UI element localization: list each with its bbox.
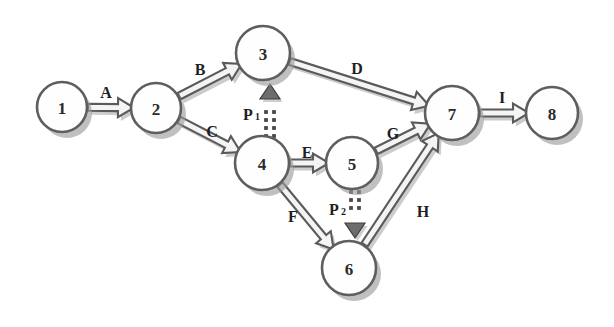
dotted-segment bbox=[264, 110, 268, 114]
dotted-edge-label-text: P bbox=[243, 106, 253, 123]
dotted-edge-label-P1: P1 bbox=[243, 106, 260, 123]
node-6[interactable]: 6 bbox=[322, 241, 381, 301]
dotted-segment bbox=[264, 118, 268, 122]
edge-body-B bbox=[178, 63, 242, 99]
edge-label-B: B bbox=[195, 61, 206, 78]
node-label-5: 5 bbox=[348, 155, 357, 174]
edge-label-D: D bbox=[351, 60, 363, 77]
edge-label-G: G bbox=[387, 125, 400, 142]
edge-label-I: I bbox=[499, 89, 505, 106]
node-label-8: 8 bbox=[548, 105, 557, 124]
edge-B bbox=[178, 63, 245, 103]
dotted-segment bbox=[272, 110, 276, 114]
dotted-segment bbox=[349, 206, 353, 210]
edge-F bbox=[277, 182, 337, 253]
node-4[interactable]: 4 bbox=[235, 136, 294, 196]
graph-svg: 12345678 P1P2ABCDEFGHI bbox=[0, 0, 614, 327]
edge-label-E: E bbox=[302, 144, 313, 161]
node-label-1: 1 bbox=[58, 99, 67, 118]
dotted-segment bbox=[357, 206, 361, 210]
node-label-6: 6 bbox=[345, 260, 354, 279]
diagram-canvas: 12345678 P1P2ABCDEFGHI bbox=[0, 0, 614, 327]
dotted-edge-P1 bbox=[260, 84, 283, 138]
node-label-7: 7 bbox=[448, 105, 457, 124]
edge-body-G bbox=[375, 122, 431, 154]
edge-body-F bbox=[277, 182, 334, 249]
edge-label-A: A bbox=[100, 84, 112, 101]
node-5[interactable]: 5 bbox=[326, 137, 383, 195]
dotted-edge-label-text: P bbox=[329, 201, 339, 218]
node-label-4: 4 bbox=[258, 155, 267, 174]
dotted-edge-label-subscript: 2 bbox=[341, 206, 346, 217]
dotted-segment bbox=[357, 198, 361, 202]
node-1[interactable]: 1 bbox=[37, 82, 92, 138]
edge-I bbox=[480, 104, 532, 127]
dotted-segment bbox=[264, 126, 268, 130]
edge-label-H: H bbox=[417, 203, 430, 220]
edge-label-F: F bbox=[288, 208, 298, 225]
node-label-3: 3 bbox=[259, 45, 268, 64]
dotted-segment bbox=[349, 198, 353, 202]
dotted-segment bbox=[272, 126, 276, 130]
edge-A bbox=[88, 98, 137, 121]
node-8[interactable]: 8 bbox=[526, 87, 583, 145]
arrowhead-P1 bbox=[260, 84, 280, 99]
dotted-edge-P2 bbox=[345, 190, 368, 241]
node-3[interactable]: 3 bbox=[236, 26, 295, 86]
node-label-2: 2 bbox=[152, 100, 161, 119]
dotted-edge-label-subscript: 1 bbox=[255, 111, 260, 122]
dotted-edge-label-P2: P2 bbox=[329, 201, 346, 218]
node-2[interactable]: 2 bbox=[131, 83, 186, 139]
dotted-segment bbox=[272, 118, 276, 122]
edge-label-C: C bbox=[206, 123, 218, 140]
